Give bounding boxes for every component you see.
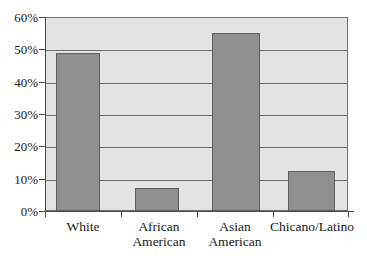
x-axis-label-african-american-line-1: American xyxy=(121,234,197,249)
y-axis-label-30: 30% xyxy=(0,108,38,121)
x-axis-label-chicano-latino: Chicano/Latino xyxy=(270,219,352,234)
bars-layer xyxy=(45,17,348,211)
x-axis-label-chicano-latino-line-0: Chicano/Latino xyxy=(270,219,352,234)
x-axis-label-african-american: African American xyxy=(121,219,197,249)
bar-white[interactable] xyxy=(56,53,100,211)
bar-chart: 60% 50% 40% 30% 20% 10% 0% White African… xyxy=(0,0,367,267)
y-tick-50 xyxy=(39,49,46,50)
x-axis-label-asian-american-line-0: Asian xyxy=(197,219,273,234)
x-axis-label-white-line-0: White xyxy=(45,219,121,234)
y-tick-60 xyxy=(39,17,46,18)
bar-chicano-latino[interactable] xyxy=(288,171,335,211)
x-axis-label-asian-american: Asian American xyxy=(197,219,273,249)
x-axis-label-white: White xyxy=(45,219,121,234)
y-axis-label-40: 40% xyxy=(0,76,38,89)
x-tick-4 xyxy=(348,211,349,217)
bar-african-american[interactable] xyxy=(135,188,179,211)
y-tick-40 xyxy=(39,82,46,83)
y-axis-label-10: 10% xyxy=(0,173,38,186)
y-tick-10 xyxy=(39,179,46,180)
y-axis-label-60: 60% xyxy=(0,11,38,24)
x-tick-2 xyxy=(197,211,198,217)
y-axis-label-0: 0% xyxy=(0,205,38,218)
x-tick-0 xyxy=(45,211,46,217)
y-tick-20 xyxy=(39,146,46,147)
y-tick-30 xyxy=(39,114,46,115)
x-tick-3 xyxy=(273,211,274,217)
x-tick-1 xyxy=(121,211,122,217)
y-axis-label-50: 50% xyxy=(0,43,38,56)
x-axis-label-african-american-line-0: African xyxy=(121,219,197,234)
y-axis-label-20: 20% xyxy=(0,140,38,153)
bar-asian-american[interactable] xyxy=(212,33,260,211)
x-axis-label-asian-american-line-1: American xyxy=(197,234,273,249)
